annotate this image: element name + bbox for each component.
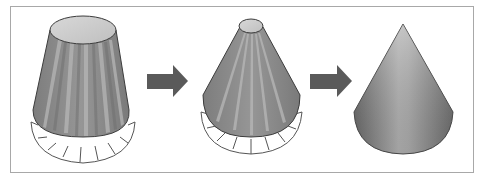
diagram-svg <box>0 0 480 179</box>
cone-top <box>239 19 263 33</box>
cone-top <box>50 16 116 44</box>
diagram-canvas <box>0 0 480 179</box>
